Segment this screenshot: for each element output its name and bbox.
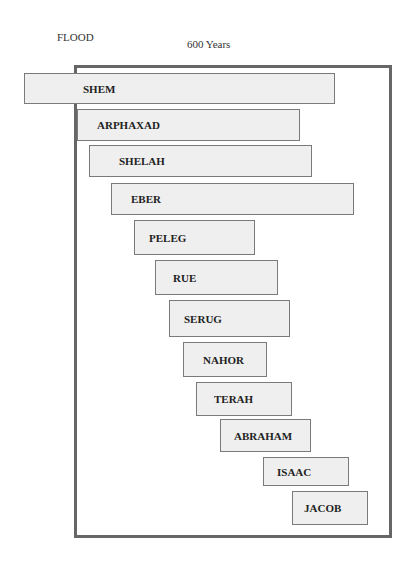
patriarch-bar-shem: SHEM — [24, 73, 335, 104]
patriarch-name: SERUG — [184, 313, 222, 325]
span-label: 600 Years — [187, 38, 230, 50]
patriarch-bar-peleg: PELEG — [134, 220, 255, 255]
patriarch-bar-arphaxad: ARPHAXAD — [77, 109, 300, 141]
patriarch-name: NAHOR — [203, 354, 244, 366]
patriarch-bar-shelah: SHELAH — [89, 145, 312, 177]
patriarch-name: RUE — [173, 272, 196, 284]
patriarch-name: PELEG — [149, 232, 186, 244]
patriarch-name: EBER — [131, 193, 161, 205]
patriarch-name: SHELAH — [119, 155, 165, 167]
patriarch-bar-terah: TERAH — [196, 382, 292, 416]
patriarch-name: ARPHAXAD — [97, 119, 160, 131]
patriarch-bar-jacob: JACOB — [292, 491, 368, 525]
patriarch-name: SHEM — [83, 83, 115, 95]
patriarch-bar-abraham: ABRAHAM — [220, 419, 311, 452]
patriarch-name: ABRAHAM — [234, 430, 292, 442]
patriarch-bar-serug: SERUG — [169, 300, 290, 337]
patriarch-bar-isaac: ISAAC — [263, 457, 349, 486]
patriarch-name: ISAAC — [277, 466, 311, 478]
patriarch-bar-nahor: NAHOR — [183, 342, 267, 377]
flood-label: FLOOD — [57, 31, 94, 43]
patriarch-name: TERAH — [214, 393, 253, 405]
patriarch-bar-eber: EBER — [111, 183, 354, 215]
patriarch-name: JACOB — [304, 502, 341, 514]
patriarch-bar-rue: RUE — [155, 260, 278, 295]
